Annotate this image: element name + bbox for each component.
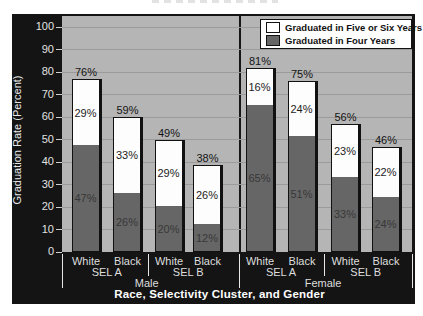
legend-row-five-or-six-years: Graduated in Five or Six Years bbox=[261, 22, 411, 33]
x-axis-divider bbox=[239, 254, 240, 288]
bar-total-label: 81% bbox=[238, 55, 282, 67]
bar-3: 26%12% bbox=[193, 165, 223, 253]
y-tick-label-10: 10 bbox=[12, 223, 54, 235]
bar-1: 33%26% bbox=[113, 117, 143, 252]
segment-four-years: 12% bbox=[194, 224, 220, 251]
male-female-divider-line bbox=[239, 16, 241, 252]
y-tick-label-80: 80 bbox=[12, 65, 54, 77]
bar-total-label: 75% bbox=[280, 68, 324, 80]
segment-four-years: 20% bbox=[156, 206, 182, 251]
x-axis-divider bbox=[62, 254, 63, 288]
cluster-label-sel-a: SEL A bbox=[266, 266, 296, 278]
segment-four-years: 65% bbox=[247, 105, 273, 251]
x-axis-title: Race, Selectivity Cluster, and Gender bbox=[24, 288, 415, 300]
gridline-90 bbox=[62, 49, 412, 50]
segment-five-or-six-years: 26% bbox=[194, 166, 220, 225]
bar-total-label: 59% bbox=[106, 104, 150, 116]
segment-four-years: 26% bbox=[114, 193, 140, 252]
bar-total-label: 76% bbox=[64, 66, 108, 78]
cluster-label-sel-b: SEL B bbox=[173, 266, 204, 278]
segment-four-years: 24% bbox=[373, 197, 399, 251]
x-axis-divider bbox=[412, 254, 413, 288]
y-tick-label-40: 40 bbox=[12, 155, 54, 167]
segment-five-or-six-years: 29% bbox=[156, 141, 182, 206]
y-tick-label-70: 70 bbox=[12, 88, 54, 100]
cluster-label-sel-b: SEL B bbox=[350, 266, 381, 278]
segment-five-or-six-years: 33% bbox=[114, 118, 140, 192]
bar-total-label: 49% bbox=[147, 127, 191, 139]
legend-label: Graduated in Four Years bbox=[285, 35, 395, 46]
bar-7: 22%24% bbox=[372, 147, 402, 253]
legend: Graduated in Five or Six Years Graduated… bbox=[260, 19, 412, 49]
bar-5: 24%51% bbox=[288, 81, 318, 252]
bar-6: 23%33% bbox=[331, 124, 361, 252]
bar-0: 29%47% bbox=[72, 79, 102, 252]
bar-total-label: 46% bbox=[364, 134, 408, 146]
segment-four-years: 47% bbox=[73, 145, 99, 251]
segment-five-or-six-years: 23% bbox=[332, 125, 358, 177]
cluster-label-sel-a: SEL A bbox=[92, 266, 122, 278]
segment-five-or-six-years: 22% bbox=[373, 148, 399, 198]
chart-frame: Graduation Rate (Percent) 10090807060504… bbox=[12, 14, 415, 304]
segment-four-years: 33% bbox=[332, 177, 358, 251]
y-tick-label-90: 90 bbox=[12, 43, 54, 55]
legend-label: Graduated in Five or Six Years bbox=[285, 22, 422, 33]
legend-row-four-years: Graduated in Four Years bbox=[261, 35, 411, 46]
y-tick-label-100: 100 bbox=[12, 20, 54, 32]
y-tick-label-0: 0 bbox=[12, 245, 54, 257]
bar-4: 16%65% bbox=[246, 68, 276, 252]
segment-five-or-six-years: 24% bbox=[289, 82, 315, 136]
legend-swatch-five-or-six-years bbox=[266, 22, 280, 33]
x-axis-divider bbox=[148, 254, 149, 276]
segment-five-or-six-years: 16% bbox=[247, 69, 273, 105]
plot-area: 29%47%76%33%26%59%29%20%49%26%12%38%16%6… bbox=[62, 16, 412, 252]
segment-five-or-six-years: 29% bbox=[73, 80, 99, 145]
gridline-80 bbox=[62, 72, 412, 73]
bar-total-label: 38% bbox=[186, 152, 230, 164]
bar-2: 29%20% bbox=[155, 140, 185, 252]
y-tick-label-30: 30 bbox=[12, 178, 54, 190]
gridline-70 bbox=[62, 94, 412, 95]
segment-four-years: 51% bbox=[289, 136, 315, 251]
chart-page: Graduation Rate (Percent) 10090807060504… bbox=[0, 0, 423, 316]
bar-total-label: 56% bbox=[324, 111, 368, 123]
legend-swatch-four-years bbox=[266, 35, 280, 46]
y-tick-label-20: 20 bbox=[12, 200, 54, 212]
y-tick-label-50: 50 bbox=[12, 133, 54, 145]
y-tick-label-60: 60 bbox=[12, 110, 54, 122]
x-axis-divider bbox=[324, 254, 325, 276]
cropped-title-fragment bbox=[152, 0, 278, 3]
